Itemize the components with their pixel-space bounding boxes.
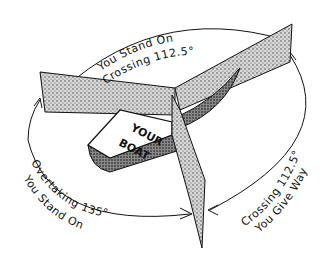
right-of-way-diagram: YOUR BOAT You Stand On Crossing 112.5° C… (0, 0, 333, 265)
crossing-sector-plane-right (175, 24, 292, 110)
boat: YOUR BOAT (88, 110, 180, 172)
